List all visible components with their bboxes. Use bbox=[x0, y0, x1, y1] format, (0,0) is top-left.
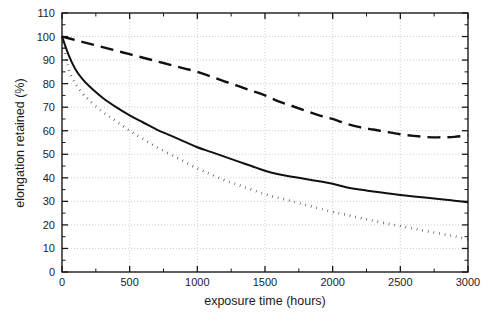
x-tick-label: 2500 bbox=[388, 276, 412, 288]
data-series bbox=[62, 37, 468, 240]
x-tick-label: 3000 bbox=[456, 276, 480, 288]
y-tick-label: 50 bbox=[43, 148, 55, 160]
y-axis-title: elongation retained (%) bbox=[13, 78, 27, 207]
x-tick-label: 2000 bbox=[320, 276, 344, 288]
y-tick-label: 0 bbox=[49, 266, 55, 278]
x-tick-label: 500 bbox=[120, 276, 138, 288]
x-tick-labels: 050010001500200025003000 bbox=[59, 276, 480, 288]
y-tick-label: 30 bbox=[43, 195, 55, 207]
y-tick-label: 100 bbox=[37, 31, 55, 43]
y-tick-label: 10 bbox=[43, 242, 55, 254]
x-axis-title: exposure time (hours) bbox=[204, 294, 326, 308]
series-dashed-curve bbox=[62, 37, 468, 138]
y-tick-label: 90 bbox=[43, 54, 55, 66]
y-tick-label: 60 bbox=[43, 125, 55, 137]
series-dotted-curve bbox=[62, 37, 468, 240]
x-tick-label: 0 bbox=[59, 276, 65, 288]
chart-canvas: 050010001500200025003000 010203040506070… bbox=[0, 0, 493, 318]
x-tick-label: 1500 bbox=[253, 276, 277, 288]
y-tick-label: 80 bbox=[43, 78, 55, 90]
y-tick-label: 40 bbox=[43, 172, 55, 184]
y-tick-labels: 0102030405060708090100110 bbox=[37, 7, 55, 278]
x-tick-label: 1000 bbox=[185, 276, 209, 288]
y-tick-label: 70 bbox=[43, 101, 55, 113]
y-tick-label: 20 bbox=[43, 219, 55, 231]
y-tick-label: 110 bbox=[37, 7, 55, 19]
chart-container: 050010001500200025003000 010203040506070… bbox=[0, 0, 493, 318]
